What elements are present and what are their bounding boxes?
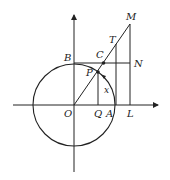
- label-p: P: [85, 67, 93, 78]
- label-c: C: [96, 49, 104, 60]
- label-a: A: [105, 108, 113, 119]
- label-t: T: [109, 34, 117, 45]
- point-p: [96, 70, 100, 74]
- point-c: [102, 61, 106, 65]
- label-n: N: [133, 58, 144, 69]
- unit-circle-diagram: M T B C N P x O Q A L: [0, 0, 170, 180]
- label-m: M: [125, 11, 137, 22]
- label-q: Q: [94, 108, 102, 119]
- label-b: B: [63, 52, 71, 63]
- label-x: x: [104, 85, 109, 95]
- label-o: O: [64, 108, 72, 119]
- label-l: L: [126, 108, 134, 119]
